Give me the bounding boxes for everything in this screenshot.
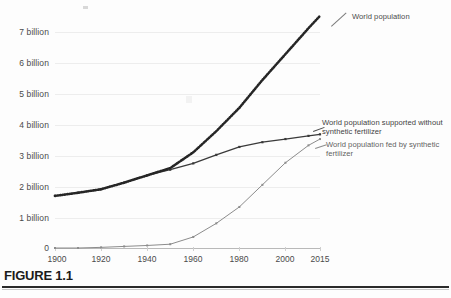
caption-cut-text xyxy=(4,292,447,298)
y-tick-label-7: 7 billion xyxy=(19,27,49,37)
y-tick-label-5: 5 billion xyxy=(19,89,49,99)
caption-rule xyxy=(2,286,449,288)
x-tick-label-1920: 1920 xyxy=(92,254,111,264)
figure-caption-block: FIGURE 1.1 xyxy=(0,268,451,298)
chart-series-svg xyxy=(55,8,320,248)
y-tick-label-4: 4 billion xyxy=(19,120,49,130)
x-tick-2015 xyxy=(320,247,321,251)
y-tick-label-0: 0 xyxy=(44,243,49,253)
population-chart: 7 billion 6 billion 5 billion 4 billion … xyxy=(0,0,451,268)
caption-rule-light xyxy=(2,289,449,290)
y-tick-label-3: 3 billion xyxy=(19,151,49,161)
annotation-supported-without: World population supported without synth… xyxy=(322,118,450,136)
leader-line-world-population xyxy=(331,13,347,27)
x-tick-label-2015: 2015 xyxy=(311,254,330,264)
x-tick-label-1960: 1960 xyxy=(184,254,203,264)
figure-label: FIGURE 1.1 xyxy=(4,268,73,283)
plot-area: 7 billion 6 billion 5 billion 4 billion … xyxy=(55,8,320,248)
series-supported-without-fertilizer xyxy=(55,134,320,196)
y-tick-label-1: 1 billion xyxy=(19,213,49,223)
x-tick-label-1900: 1900 xyxy=(48,254,67,264)
x-tick-label-1980: 1980 xyxy=(230,254,249,264)
annotation-world-population: World population xyxy=(352,12,410,21)
x-tick-label-1940: 1940 xyxy=(138,254,157,264)
x-axis-line xyxy=(55,248,320,249)
annotation-fed-by: World population fed by synthetic fertil… xyxy=(326,140,450,158)
figure-page: 7 billion 6 billion 5 billion 4 billion … xyxy=(0,0,451,298)
series-fed-markers xyxy=(54,138,321,249)
series-world-population xyxy=(55,16,320,196)
x-tick-label-2000: 2000 xyxy=(276,254,295,264)
y-tick-label-2: 2 billion xyxy=(19,182,49,192)
y-tick-label-6: 6 billion xyxy=(19,58,49,68)
